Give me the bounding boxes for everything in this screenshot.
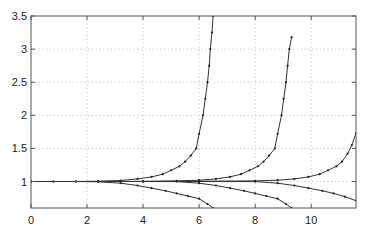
data-point-marker — [280, 114, 282, 116]
data-point-marker — [341, 161, 343, 163]
data-point-marker — [184, 161, 186, 163]
y-tick-label: 2 — [21, 109, 27, 121]
data-point-marker — [211, 31, 213, 33]
data-point-marker — [176, 192, 178, 194]
data-point-marker — [206, 203, 208, 205]
data-point-marker — [136, 184, 138, 186]
data-point-marker — [136, 178, 138, 180]
data-point-marker — [321, 190, 323, 192]
data-point-marker — [257, 165, 259, 167]
data-point-marker — [283, 98, 285, 100]
x-tick-label: 10 — [305, 214, 317, 226]
data-point-marker — [333, 192, 335, 194]
data-point-marker — [209, 48, 211, 50]
data-point-marker — [150, 176, 152, 178]
data-point-marker — [243, 190, 245, 192]
data-point-marker — [164, 190, 166, 192]
y-tick-label: 1.5 — [12, 142, 27, 154]
data-point-marker — [293, 184, 295, 186]
data-point-marker — [240, 173, 242, 175]
data-point-marker — [291, 36, 293, 38]
data-point-marker — [347, 153, 349, 155]
data-point-marker — [285, 203, 287, 205]
data-point-marker — [351, 144, 353, 146]
chart: 0246810 11.522.533.5 — [0, 0, 370, 230]
data-point-marker — [277, 133, 279, 135]
data-point-marker — [344, 196, 346, 198]
x-tick-label: 0 — [28, 214, 34, 226]
data-point-marker — [229, 187, 231, 189]
data-point-marker — [120, 182, 122, 184]
data-point-marker — [198, 198, 200, 200]
data-point-marker — [195, 147, 197, 149]
data-point-marker — [277, 182, 279, 184]
x-tick-label: 8 — [252, 214, 258, 226]
data-point-marker — [293, 178, 295, 180]
data-point-marker — [285, 81, 287, 83]
y-tick-label: 1 — [21, 176, 27, 188]
x-tick-label: 6 — [196, 214, 202, 226]
data-point-marker — [202, 114, 204, 116]
data-point-marker — [206, 81, 208, 83]
data-point-marker — [150, 187, 152, 189]
data-point-marker — [178, 165, 180, 167]
data-point-marker — [187, 195, 189, 197]
data-point-marker — [307, 176, 309, 178]
y-tick-label: 2.5 — [12, 76, 27, 88]
x-tick-label: 2 — [84, 214, 90, 226]
data-point-marker — [265, 195, 267, 197]
data-point-marker — [198, 180, 200, 182]
data-point-marker — [215, 184, 217, 186]
data-point-marker — [277, 179, 279, 181]
y-tick-label: 3 — [21, 43, 27, 55]
data-point-marker — [229, 176, 231, 178]
data-point-marker — [170, 169, 172, 171]
data-point-marker — [277, 198, 279, 200]
data-point-marker — [268, 155, 270, 157]
data-point-marker — [335, 165, 337, 167]
data-point-marker — [287, 65, 289, 67]
data-point-marker — [208, 65, 210, 67]
y-tick-label: 3.5 — [12, 10, 27, 22]
data-point-marker — [319, 173, 321, 175]
data-point-marker — [274, 147, 276, 149]
data-point-marker — [307, 187, 309, 189]
data-point-marker — [162, 173, 164, 175]
data-point-marker — [198, 133, 200, 135]
data-point-marker — [215, 178, 217, 180]
data-point-marker — [288, 48, 290, 50]
data-point-marker — [248, 169, 250, 171]
data-point-marker — [254, 181, 256, 183]
data-point-marker — [327, 169, 329, 171]
data-point-marker — [262, 161, 264, 163]
data-point-marker — [204, 98, 206, 100]
data-point-marker — [190, 155, 192, 157]
data-point-marker — [254, 192, 256, 194]
x-tick-label: 4 — [140, 214, 146, 226]
